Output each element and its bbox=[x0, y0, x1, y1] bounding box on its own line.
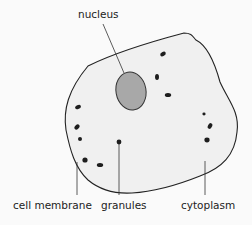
nucleus-label: nucleus bbox=[78, 8, 119, 20]
cell-diagram bbox=[0, 0, 252, 225]
cell-membrane-outline bbox=[65, 33, 237, 193]
granules-label: granules bbox=[101, 199, 147, 211]
cytoplasm-label: cytoplasm bbox=[181, 199, 235, 211]
cell-membrane-label: cell membrane bbox=[13, 199, 92, 211]
